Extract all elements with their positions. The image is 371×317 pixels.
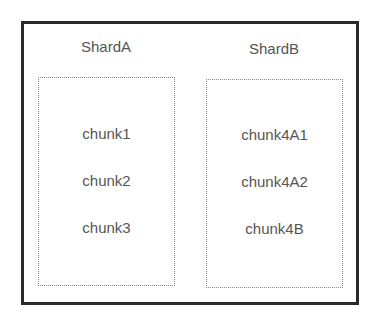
shard-b-box: chunk4A1 chunk4A2 chunk4B: [206, 79, 343, 288]
chunk-item: chunk4B: [207, 220, 342, 237]
shard-a-title: ShardA: [38, 38, 174, 55]
chunk-item: chunk3: [39, 219, 174, 236]
shard-a-box: chunk1 chunk2 chunk3: [38, 77, 175, 286]
shard-b-title: ShardB: [206, 40, 342, 57]
chunk-item: chunk1: [39, 125, 174, 142]
chunk-item: chunk4A1: [207, 126, 342, 143]
chunk-item: chunk2: [39, 172, 174, 189]
chunk-item: chunk4A2: [207, 173, 342, 190]
